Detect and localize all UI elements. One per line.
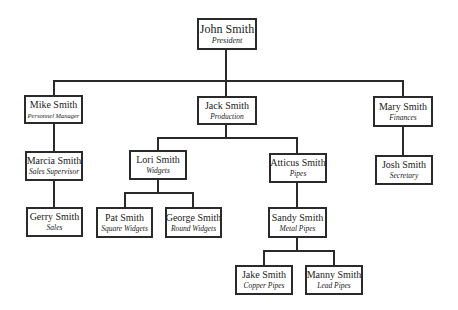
node-lori-smith: Lori Smith Widgets xyxy=(129,150,187,180)
connector-john-down xyxy=(225,49,227,96)
node-name: George Smith xyxy=(166,212,222,224)
node-gerry-smith: Gerry Smith Sales xyxy=(26,207,83,237)
node-name: Lori Smith xyxy=(136,154,180,166)
node-pat-smith: Pat Smith Square Widgets xyxy=(96,207,153,238)
connector-manny-up xyxy=(333,250,335,265)
node-manny-smith: Manny Smith Lead Pipes xyxy=(305,265,363,295)
node-title: Square Widgets xyxy=(101,224,148,234)
connector-mike-marcia xyxy=(53,123,55,151)
connector-mary-josh xyxy=(402,126,404,155)
node-title: Personnel Manager xyxy=(28,111,80,121)
node-title: Production xyxy=(210,112,243,122)
node-name: Gerry Smith xyxy=(30,211,80,223)
node-title: Metal Pipes xyxy=(279,224,315,234)
connector-lori-horizontal xyxy=(124,192,194,194)
connector-marcia-gerry xyxy=(53,180,55,207)
connector-level1-horizontal xyxy=(53,80,404,82)
node-title: Finances xyxy=(389,113,417,123)
connector-lori-down xyxy=(157,179,159,193)
connector-mike-up xyxy=(53,80,55,95)
node-mike-smith: Mike Smith Personnel Manager xyxy=(24,95,83,124)
node-title: Round Widgets xyxy=(171,224,216,234)
node-name: Pat Smith xyxy=(105,212,144,224)
node-name: Sandy Smith xyxy=(272,212,323,224)
connector-jake-up xyxy=(263,250,265,265)
connector-atticus-sandy xyxy=(296,182,298,207)
node-name: Atticus Smith xyxy=(270,157,325,169)
node-name: Manny Smith xyxy=(307,269,362,281)
node-sandy-smith: Sandy Smith Metal Pipes xyxy=(268,207,327,238)
connector-jack-horizontal xyxy=(157,137,298,139)
connector-lori-up xyxy=(157,137,159,150)
connector-sandy-horizontal xyxy=(263,250,335,252)
connector-pat-up xyxy=(124,192,126,207)
node-name: Josh Smith xyxy=(382,159,426,171)
node-marcia-smith: Marcia Smith Sales Supervisor xyxy=(25,151,83,181)
node-george-smith: George Smith Round Widgets xyxy=(165,207,222,238)
node-name: Mary Smith xyxy=(379,101,427,113)
node-josh-smith: Josh Smith Secretary xyxy=(375,155,433,185)
connector-mary-up xyxy=(402,80,404,96)
node-jake-smith: Jake Smith Copper Pipes xyxy=(235,265,293,295)
node-jack-smith: Jack Smith Production xyxy=(197,96,257,125)
node-title: Pipes xyxy=(290,169,307,179)
node-title: Widgets xyxy=(146,166,170,176)
node-name: John Smith xyxy=(200,22,254,36)
connector-george-up xyxy=(192,192,194,207)
node-title: Sales Supervisor xyxy=(29,167,79,177)
connector-atticus-up xyxy=(296,137,298,153)
node-john-smith: John Smith President xyxy=(197,18,257,50)
node-name: Jake Smith xyxy=(242,269,286,281)
node-name: Marcia Smith xyxy=(27,155,82,167)
node-title: President xyxy=(212,36,242,46)
node-name: Mike Smith xyxy=(30,99,78,111)
node-title: Lead Pipes xyxy=(317,281,351,291)
connector-jack-down xyxy=(225,124,227,138)
node-title: Copper Pipes xyxy=(243,281,284,291)
node-title: Secretary xyxy=(390,171,418,181)
node-atticus-smith: Atticus Smith Pipes xyxy=(269,153,327,183)
node-mary-smith: Mary Smith Finances xyxy=(373,96,433,127)
node-title: Sales xyxy=(47,223,63,233)
node-name: Jack Smith xyxy=(205,100,249,112)
